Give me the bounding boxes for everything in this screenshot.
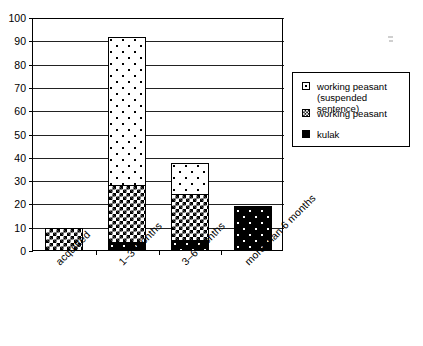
bar-slot <box>221 17 284 250</box>
y-axis-tick-label: 60 <box>0 105 26 117</box>
y-axis-tick-mark <box>29 251 33 252</box>
legend-label-kulak: kulak <box>317 129 339 140</box>
y-axis-tick-label: 50 <box>0 129 26 141</box>
plot-area <box>32 18 283 251</box>
white-dotted-swatch-icon <box>302 82 310 90</box>
solid-black-swatch-icon <box>302 130 310 138</box>
bar-slot <box>96 17 159 250</box>
checkerboard-swatch-icon <box>302 109 310 117</box>
x-axis-tick-mark <box>159 250 160 255</box>
y-axis-tick-label: 30 <box>0 175 26 187</box>
y-axis-tick-label: 90 <box>0 35 26 47</box>
stacked-bar[interactable] <box>108 37 146 250</box>
bar-slot <box>33 17 96 250</box>
bar-slot <box>159 17 222 250</box>
y-axis-tick-label: 80 <box>0 59 26 71</box>
legend-item-working-peasant: working peasant <box>302 108 387 119</box>
legend-item-kulak: kulak <box>302 129 339 140</box>
y-axis-tick-label: 10 <box>0 222 26 234</box>
bar-segment[interactable] <box>171 163 209 196</box>
legend-label-working-peasant: working peasant <box>317 108 387 119</box>
chart-legend: working peasant (suspended sentence) wor… <box>292 72 410 147</box>
stacked-bar-chart-figure: 0102030405060708090100 acquitted1–3 mont… <box>0 0 423 346</box>
scan-artifact <box>389 40 393 42</box>
x-axis-tick-mark <box>96 250 97 255</box>
scan-artifact <box>388 36 393 38</box>
y-axis-tick-label: 0 <box>0 245 26 257</box>
y-axis-tick-label: 40 <box>0 152 26 164</box>
y-axis-tick-label: 20 <box>0 198 26 210</box>
bar-segment[interactable] <box>108 37 146 186</box>
y-axis-tick-label: 100 <box>0 12 26 24</box>
x-axis-tick-mark <box>221 250 222 255</box>
y-axis-tick-label: 70 <box>0 82 26 94</box>
